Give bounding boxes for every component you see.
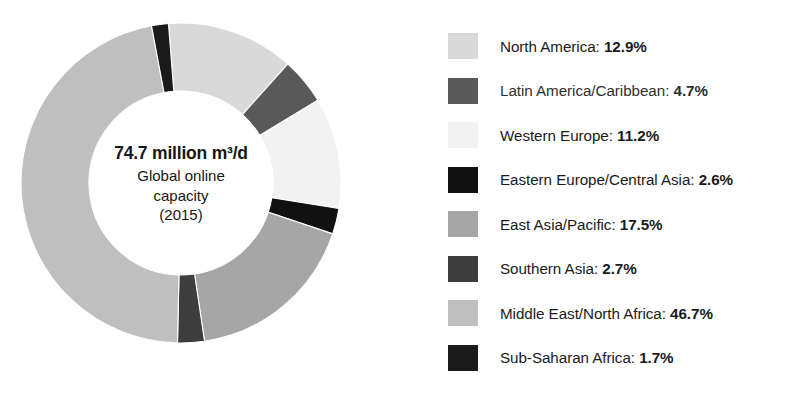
donut-slice[interactable] xyxy=(195,212,333,341)
legend-value: 46.7% xyxy=(670,305,713,322)
legend-label-text: North America: xyxy=(500,38,604,55)
legend-swatch xyxy=(448,33,478,59)
legend-swatch xyxy=(448,256,478,282)
legend-swatch xyxy=(448,122,478,148)
legend-label-text: Western Europe: xyxy=(500,127,617,144)
legend-value: 4.7% xyxy=(674,82,708,99)
donut-slice[interactable] xyxy=(21,26,179,343)
donut-chart: 74.7 million m³/d Global online capacity… xyxy=(18,20,344,346)
legend-label: Western Europe: 11.2% xyxy=(500,127,659,144)
legend-label-text: Latin America/Caribbean: xyxy=(500,82,674,99)
legend-swatch xyxy=(448,78,478,104)
legend-swatch xyxy=(448,211,478,237)
legend-item[interactable]: Western Europe: 11.2% xyxy=(448,113,798,158)
legend-label-text: Middle East/North Africa: xyxy=(500,305,670,322)
legend-item[interactable]: Latin America/Caribbean: 4.7% xyxy=(448,69,798,114)
legend-value: 2.7% xyxy=(602,260,636,277)
legend-item[interactable]: North America: 12.9% xyxy=(448,24,798,69)
legend-label: Middle East/North Africa: 46.7% xyxy=(500,305,713,322)
legend-swatch xyxy=(448,300,478,326)
legend-label: Southern Asia: 2.7% xyxy=(500,260,637,277)
legend-label-text: Eastern Europe/Central Asia: xyxy=(500,171,699,188)
legend-label: North America: 12.9% xyxy=(500,38,647,55)
legend-item[interactable]: Eastern Europe/Central Asia: 2.6% xyxy=(448,158,798,203)
legend-label: Eastern Europe/Central Asia: 2.6% xyxy=(500,171,733,188)
legend-label: Sub-Saharan Africa: 1.7% xyxy=(500,349,674,366)
legend-swatch xyxy=(448,167,478,193)
legend-item[interactable]: Sub-Saharan Africa: 1.7% xyxy=(448,336,798,381)
legend-value: 1.7% xyxy=(639,349,673,366)
legend-swatch xyxy=(448,345,478,371)
legend-label: Latin America/Caribbean: 4.7% xyxy=(500,82,708,99)
chart-legend: North America: 12.9%Latin America/Caribb… xyxy=(448,24,798,380)
legend-label: East Asia/Pacific: 17.5% xyxy=(500,216,663,233)
legend-value: 2.6% xyxy=(699,171,733,188)
donut-chart-figure: 74.7 million m³/d Global online capacity… xyxy=(0,0,806,396)
legend-label-text: East Asia/Pacific: xyxy=(500,216,620,233)
legend-item[interactable]: Middle East/North Africa: 46.7% xyxy=(448,291,798,336)
legend-item[interactable]: Southern Asia: 2.7% xyxy=(448,247,798,292)
donut-svg xyxy=(18,20,344,346)
legend-item[interactable]: East Asia/Pacific: 17.5% xyxy=(448,202,798,247)
legend-value: 11.2% xyxy=(617,127,659,144)
legend-value: 12.9% xyxy=(604,38,647,55)
legend-value: 17.5% xyxy=(620,216,663,233)
legend-label-text: Sub-Saharan Africa: xyxy=(500,349,639,366)
legend-label-text: Southern Asia: xyxy=(500,260,602,277)
